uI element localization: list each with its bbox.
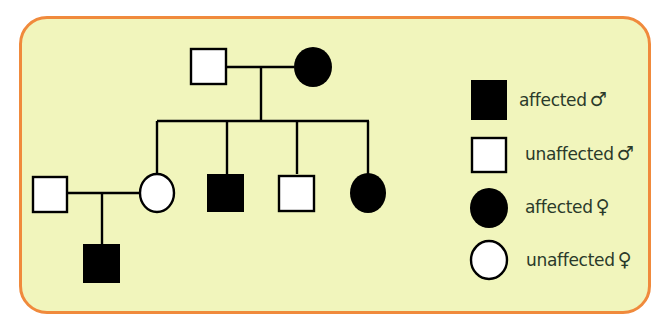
male-symbol-icon: ♂	[617, 142, 634, 164]
legend-label-unaffected-female: unaffected♀	[526, 248, 631, 270]
legend-label-unaffected-male: unaffected♂	[525, 142, 633, 164]
legend-affected-female-icon	[470, 188, 508, 228]
legend-label-affected-male: affected♂	[519, 88, 606, 110]
female-symbol-icon: ♀	[596, 195, 610, 217]
pedigree-chart	[0, 0, 670, 333]
legend-text: affected	[525, 197, 593, 217]
male-unaffected-gen2	[279, 176, 314, 211]
female-symbol-icon: ♀	[618, 248, 632, 270]
legend-text: affected	[519, 90, 587, 110]
male-unaffected-spouse	[33, 177, 67, 212]
male-affected-gen3	[83, 244, 120, 283]
legend-text: unaffected	[525, 144, 614, 164]
male-affected-gen2	[207, 174, 244, 212]
male-symbol-icon: ♂	[590, 88, 607, 110]
legend-label-affected-female: affected♀	[525, 195, 609, 217]
female-affected-gen1	[294, 47, 332, 87]
female-unaffected-gen2	[140, 174, 174, 212]
legend-affected-male-icon	[471, 80, 507, 120]
legend-unaffected-female-icon	[471, 241, 507, 279]
male-unaffected-gen1	[191, 49, 226, 84]
legend-text: unaffected	[526, 250, 615, 270]
legend-unaffected-male-icon	[472, 138, 506, 172]
connector-lines	[67, 67, 369, 245]
female-affected-gen2	[350, 173, 386, 213]
